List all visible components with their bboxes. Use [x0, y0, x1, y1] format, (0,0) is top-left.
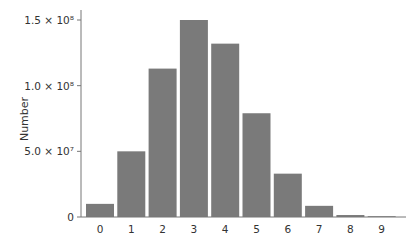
x-tick-label: 1 — [128, 223, 135, 235]
y-tick-label: 1.0 × 10⁸ — [24, 80, 74, 92]
y-tick-label: 1.5 × 10⁸ — [24, 14, 74, 26]
y-tick-label: 0 — [67, 211, 74, 223]
x-tick-label: 8 — [347, 223, 354, 235]
bar-2 — [149, 69, 177, 217]
bar-5 — [243, 113, 271, 217]
bar-1 — [117, 151, 145, 217]
bar-4 — [211, 44, 239, 217]
x-tick-label: 7 — [316, 223, 323, 235]
y-axis-title: Number — [18, 96, 31, 141]
x-tick-label: 5 — [253, 223, 260, 235]
x-axis-ticks: 0123456789 — [97, 223, 385, 235]
bar-chart: 05.0 × 10⁷1.0 × 10⁸1.5 × 10⁸ 0123456789 … — [0, 0, 418, 242]
x-tick-label: 2 — [159, 223, 166, 235]
x-tick-label: 0 — [97, 223, 104, 235]
bar-7 — [305, 206, 333, 217]
y-tick-label: 5.0 × 10⁷ — [24, 145, 74, 157]
x-tick-label: 3 — [191, 223, 198, 235]
x-tick-label: 9 — [378, 223, 385, 235]
bar-6 — [274, 174, 302, 217]
bars — [86, 20, 396, 217]
x-tick-label: 4 — [222, 223, 229, 235]
bar-3 — [180, 20, 208, 217]
y-axis-ticks: 05.0 × 10⁷1.0 × 10⁸1.5 × 10⁸ — [24, 14, 81, 223]
x-tick-label: 6 — [284, 223, 291, 235]
bar-0 — [86, 204, 114, 217]
